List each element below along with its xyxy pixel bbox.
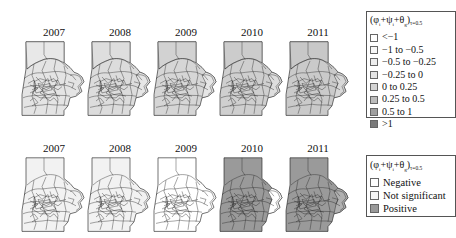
legend-value-classes: (φi+ψi+θg)τ=0.5 <−1 −1 to −0.5 −0.5 to −…: [366, 11, 456, 118]
choropleth-map: [86, 37, 152, 117]
legend-label: Positive: [383, 202, 417, 215]
legend-item: >1: [370, 118, 452, 130]
choropleth-map: [86, 153, 152, 233]
choropleth-map: [284, 153, 350, 233]
legend-swatch: [370, 96, 378, 104]
map-row-point-estimates: 2007 2008 2009 2010: [0, 0, 360, 115]
map-panel-2008-bottom: 2008: [86, 142, 154, 232]
map-panel-2008-top: 2008: [86, 26, 154, 116]
map-panel-2011-top: 2011: [284, 26, 352, 116]
legend-swatch: [370, 34, 378, 42]
choropleth-map: [20, 37, 86, 117]
map-panel-2009-top: 2009: [152, 26, 220, 116]
legend-title: (φi+ψi+θg)τ=0.5: [370, 14, 452, 31]
legend-label: 0 to 0.25: [382, 81, 417, 93]
legend-item: <−1: [370, 31, 452, 43]
choropleth-map: [152, 153, 218, 233]
legend-label: <−1: [382, 31, 398, 43]
choropleth-map: [152, 37, 218, 117]
legend-swatch: [370, 191, 379, 200]
legend-label: −0.25 to 0: [382, 69, 423, 81]
legend-item: 0.5 to 1: [370, 106, 452, 118]
legend-item: 0.25 to 0.5: [370, 93, 452, 105]
legend-item: 0 to 0.25: [370, 81, 452, 93]
legend-label: 0.5 to 1: [382, 106, 412, 118]
legend-item: Positive: [370, 202, 452, 215]
legend-item: −0.25 to 0: [370, 69, 452, 81]
legend-significance: (φi+ψi+θg)τ=0.5 Negative Not significant…: [366, 155, 456, 217]
choropleth-map: [284, 37, 350, 117]
legend-swatch: [370, 46, 378, 54]
legend-swatch: [370, 120, 378, 128]
map-panel-2009-bottom: 2009: [152, 142, 220, 232]
legend-label: −1 to −0.5: [382, 44, 424, 56]
map-panel-2010-bottom: 2010: [218, 142, 286, 232]
legend-title: (φi+ψi+θg)τ=0.5: [370, 158, 452, 176]
map-panel-2007-bottom: 2007: [20, 142, 88, 232]
map-row-significance: 2007 2008 2009 2010 2011: [0, 118, 360, 233]
map-panel-2011-bottom: 2011: [284, 142, 352, 232]
legend-item: −0.5 to −0.25: [370, 56, 452, 68]
legend-swatch: [370, 58, 378, 66]
legend-item: Negative: [370, 176, 452, 189]
legend-swatch: [370, 178, 379, 187]
legend-label: Not significant: [383, 189, 446, 202]
choropleth-map: [218, 37, 284, 117]
map-panel-2007-top: 2007: [20, 26, 88, 116]
legend-label: >1: [382, 118, 393, 130]
map-panel-2010-top: 2010: [218, 26, 286, 116]
legend-label: Negative: [383, 176, 421, 189]
choropleth-map: [218, 153, 284, 233]
legend-label: −0.5 to −0.25: [382, 56, 436, 68]
legend-swatch: [370, 108, 378, 116]
legend-swatch: [370, 204, 379, 213]
legend-swatch: [370, 71, 378, 79]
legend-item: −1 to −0.5: [370, 44, 452, 56]
choropleth-map: [20, 153, 86, 233]
legend-swatch: [370, 83, 378, 91]
legend-label: 0.25 to 0.5: [382, 93, 425, 105]
legend-item: Not significant: [370, 189, 452, 202]
